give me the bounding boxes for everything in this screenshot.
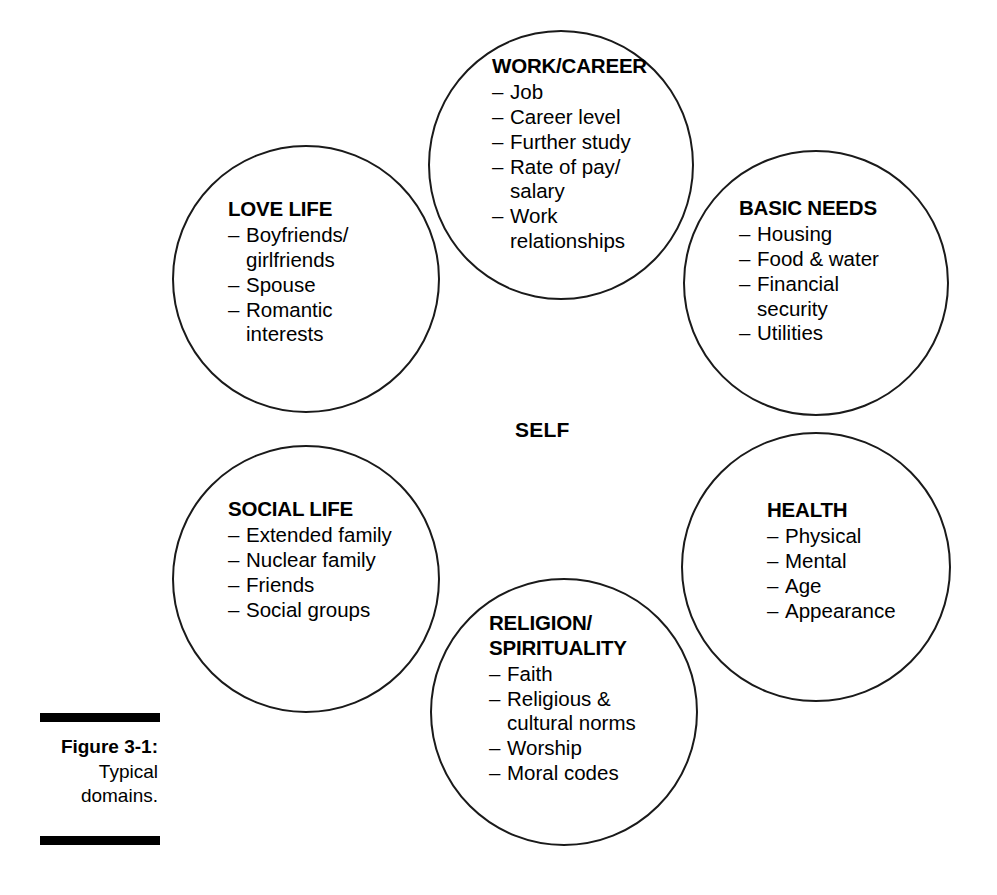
caption-rule-bottom — [40, 836, 160, 845]
domain-title-work-career: WORK/CAREER — [492, 54, 692, 79]
domain-content-religion-spirituality: RELIGION/ SPIRITUALITY Faith Religious &… — [489, 611, 694, 786]
list-item: Rate of pay/ salary — [492, 155, 692, 205]
domain-list-health: Physical Mental Age Appearance — [767, 524, 957, 624]
list-item: Food & water — [739, 247, 939, 272]
caption-line-2: domains. — [38, 784, 158, 809]
list-item: Romantic interests — [228, 298, 418, 348]
list-item: Appearance — [767, 599, 957, 624]
list-item: Work relationships — [492, 204, 692, 254]
list-item: Career level — [492, 105, 692, 130]
list-item: Utilities — [739, 321, 939, 346]
domain-list-work-career: Job Career level Further study Rate of p… — [492, 80, 692, 254]
domain-content-basic-needs: BASIC NEEDS Housing Food & water Financi… — [739, 196, 939, 346]
list-item: Financial security — [739, 272, 939, 322]
list-item: Housing — [739, 222, 939, 247]
domain-title-social-life: SOCIAL LIFE — [228, 497, 438, 522]
domain-list-basic-needs: Housing Food & water Financial security … — [739, 222, 939, 347]
caption-rule-top — [40, 713, 160, 722]
list-item: Social groups — [228, 598, 438, 623]
domain-content-health: HEALTH Physical Mental Age Appearance — [767, 498, 957, 623]
domain-title-religion-spirituality: RELIGION/ SPIRITUALITY — [489, 611, 694, 661]
list-item: Further study — [492, 130, 692, 155]
list-item: Nuclear family — [228, 548, 438, 573]
list-item: Job — [492, 80, 692, 105]
domain-content-social-life: SOCIAL LIFE Extended family Nuclear fami… — [228, 497, 438, 622]
list-item: Worship — [489, 736, 694, 761]
list-item: Physical — [767, 524, 957, 549]
domain-title-love-life: LOVE LIFE — [228, 197, 418, 222]
list-item: Religious & cultural norms — [489, 687, 694, 737]
domain-list-religion-spirituality: Faith Religious & cultural norms Worship… — [489, 662, 694, 787]
figure-canvas: WORK/CAREER Job Career level Further stu… — [0, 0, 997, 895]
domain-content-love-life: LOVE LIFE Boyfriends/ girlfriends Spouse… — [228, 197, 418, 347]
domain-title-health: HEALTH — [767, 498, 957, 523]
self-label: SELF — [515, 418, 569, 442]
list-item: Age — [767, 574, 957, 599]
caption-figure-number: Figure 3-1: — [38, 735, 158, 760]
domain-title-basic-needs: BASIC NEEDS — [739, 196, 939, 221]
caption-line-1: Typical — [38, 760, 158, 785]
domain-content-work-career: WORK/CAREER Job Career level Further stu… — [492, 54, 692, 254]
list-item: Friends — [228, 573, 438, 598]
list-item: Extended family — [228, 523, 438, 548]
list-item: Boyfriends/ girlfriends — [228, 223, 418, 273]
list-item: Faith — [489, 662, 694, 687]
list-item: Spouse — [228, 273, 418, 298]
list-item: Mental — [767, 549, 957, 574]
domain-list-social-life: Extended family Nuclear family Friends S… — [228, 523, 438, 623]
domain-list-love-life: Boyfriends/ girlfriends Spouse Romantic … — [228, 223, 418, 348]
figure-caption: Figure 3-1: Typical domains. — [38, 735, 158, 809]
list-item: Moral codes — [489, 761, 694, 786]
